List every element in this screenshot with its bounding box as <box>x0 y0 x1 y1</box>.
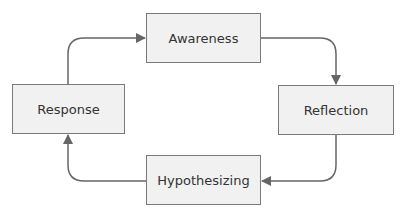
node-label: Reflection <box>304 103 369 118</box>
arrow-response-to-awareness <box>68 38 145 84</box>
node-label: Hypothesizing <box>157 173 249 188</box>
node-label: Awareness <box>169 31 239 46</box>
node-hypothesizing: Hypothesizing <box>146 155 261 205</box>
node-awareness: Awareness <box>146 13 261 63</box>
arrow-reflection-to-hypothesizing <box>262 135 336 181</box>
arrow-hypothesizing-to-response <box>68 135 146 181</box>
node-reflection: Reflection <box>278 85 394 135</box>
node-label: Response <box>37 102 99 117</box>
arrow-awareness-to-reflection <box>261 38 336 84</box>
node-response: Response <box>12 84 125 134</box>
